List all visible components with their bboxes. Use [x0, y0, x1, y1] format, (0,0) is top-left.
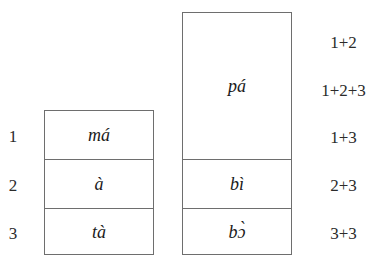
row-index-1: 1 — [0, 128, 26, 145]
syllable-table-left: má à tà — [44, 110, 154, 255]
combination-label-2: 1+2+3 — [306, 82, 381, 99]
table-right-cell-1: pá — [183, 13, 291, 159]
table-left-cell-2: à — [45, 159, 153, 208]
combination-label-4: 2+3 — [306, 177, 381, 194]
table-right-cell-2: bì — [183, 159, 291, 208]
table-left-cell-1: má — [45, 111, 153, 159]
syllable-table-right: pá bì bɔ̀ — [182, 12, 292, 255]
tone-table-figure: 1 2 3 má à tà pá bì bɔ̀ 1+2 1+2+3 1+3 2+… — [0, 0, 381, 263]
row-index-3: 3 — [0, 225, 26, 242]
combination-label-5: 3+3 — [306, 225, 381, 242]
combination-label-3: 1+3 — [306, 129, 381, 146]
row-index-2: 2 — [0, 177, 26, 194]
table-left-cell-3: tà — [45, 208, 153, 254]
table-right-cell-3: bɔ̀ — [183, 208, 291, 254]
combination-label-1: 1+2 — [306, 34, 381, 51]
